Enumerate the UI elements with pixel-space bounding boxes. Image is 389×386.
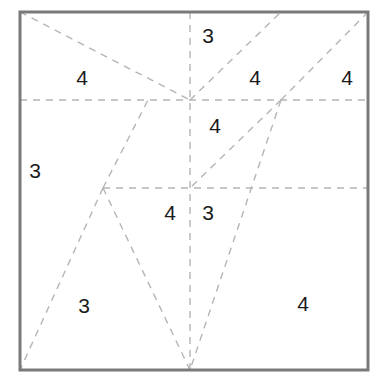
label-4-top-far-right: 4 xyxy=(341,67,353,88)
diagonal-righthub-to-bottomcenter xyxy=(190,100,281,370)
label-3-left: 3 xyxy=(29,160,41,181)
diagonal-righthub-to-topright xyxy=(281,12,368,100)
diagonal-righthub-to-verticalmid xyxy=(190,100,281,188)
label-4-top-left: 4 xyxy=(76,67,88,88)
diagonal-leftnotch-to-bottomleft xyxy=(20,188,103,370)
label-4-mid-lower-left: 4 xyxy=(164,202,176,223)
construction-lines-group xyxy=(20,12,368,370)
label-3-bottom-left: 3 xyxy=(78,295,90,316)
label-4-center: 4 xyxy=(209,115,221,136)
diagonal-topleft-to-center xyxy=(20,12,190,100)
label-3-top-center: 3 xyxy=(202,25,214,46)
diagonal-leftnotch-to-horizontal xyxy=(103,100,148,188)
diagonal-leftnotch-to-bottomcenter xyxy=(103,188,190,370)
geometry-figure: 3444434334 xyxy=(0,0,389,386)
outer-square-border xyxy=(20,12,368,370)
figure-canvas xyxy=(0,0,389,386)
label-3-mid-lower-right: 3 xyxy=(202,202,214,223)
label-4-top-mid-right: 4 xyxy=(249,67,261,88)
label-4-bottom-right: 4 xyxy=(297,293,309,314)
